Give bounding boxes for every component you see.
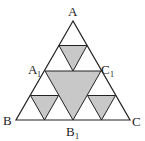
label-B1: B	[66, 124, 75, 139]
label-C1: C	[101, 62, 110, 77]
top-shaded-triangle	[59, 46, 87, 72]
label-C1-subscript: 1	[110, 70, 114, 79]
left-shaded-triangle	[31, 96, 59, 121]
label-B1-subscript: 1	[75, 132, 79, 141]
right-shaded-triangle	[88, 96, 116, 121]
label-A1-subscript: 1	[37, 70, 41, 79]
label-A: A	[68, 4, 78, 19]
label-C: C	[132, 114, 141, 129]
label-B: B	[3, 113, 12, 128]
triangle-diagram: A B C A 1 C 1 B 1	[0, 0, 145, 141]
